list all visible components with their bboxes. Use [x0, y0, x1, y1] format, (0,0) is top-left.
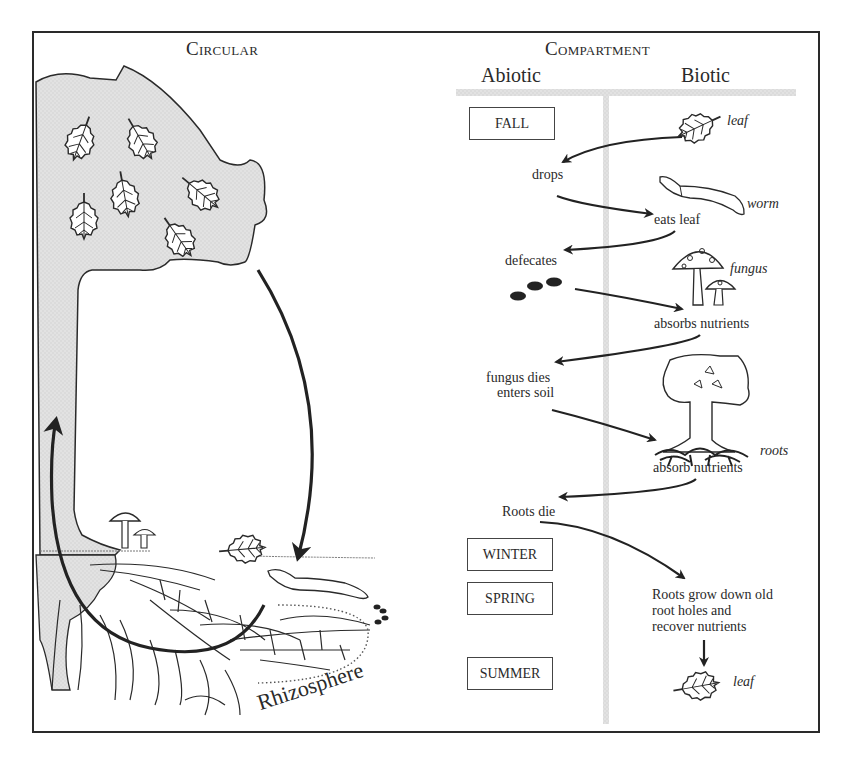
- tree-roots-icon: [655, 355, 749, 466]
- step-drops: drops: [532, 167, 563, 183]
- abiotic-column-header: Abiotic: [481, 64, 541, 87]
- tree-illustration: [36, 66, 267, 690]
- left-mushrooms: [110, 513, 155, 548]
- step-absorb-nutrients: absorb nutrients: [653, 460, 743, 476]
- step-defecates: defecates: [505, 253, 557, 269]
- step-eats-leaf: eats leaf: [654, 212, 700, 228]
- roots-label: roots: [760, 443, 788, 459]
- season-fall: FALL: [469, 107, 555, 140]
- left-panel-title: Circular: [186, 38, 258, 60]
- column-header-rule: [456, 89, 796, 96]
- season-spring: SPRING: [467, 582, 553, 615]
- season-summer: SUMMER: [467, 657, 553, 690]
- cycle-arrow-down: [258, 270, 312, 558]
- leaf-top-icon: [673, 104, 727, 149]
- falling-leaf-icon: [218, 533, 266, 565]
- nutrient-cycle-diagram: Circular Rhizosphere Compartment Abiotic…: [0, 0, 844, 759]
- leaf-bottom-label: leaf: [733, 674, 754, 690]
- leaf-top-label: leaf: [727, 113, 748, 129]
- step-roots-die: Roots die: [502, 504, 555, 520]
- step-enters-soil: enters soil: [497, 385, 554, 401]
- season-winter: WINTER: [467, 538, 553, 571]
- worm-label: worm: [747, 196, 779, 212]
- leaf-bottom-icon: [671, 669, 721, 705]
- step-roots-grow-line2: root holes and: [652, 603, 731, 619]
- right-panel-title: Compartment: [545, 38, 650, 60]
- step-absorbs-nutrients: absorbs nutrients: [654, 316, 749, 332]
- left-worm: [268, 570, 368, 599]
- column-divider: [603, 96, 609, 724]
- left-droppings: [374, 605, 389, 625]
- droppings-icon: [510, 278, 562, 301]
- worm-icon: [660, 177, 744, 215]
- step-fungus-dies: fungus dies: [486, 370, 550, 386]
- fungus-icon: [673, 249, 735, 306]
- step-roots-grow-line1: Roots grow down old: [652, 587, 773, 603]
- step-roots-grow-line3: recover nutrients: [652, 619, 746, 635]
- fungus-label: fungus: [730, 261, 767, 277]
- diagram-artwork: [0, 0, 844, 759]
- biotic-column-header: Biotic: [681, 64, 730, 87]
